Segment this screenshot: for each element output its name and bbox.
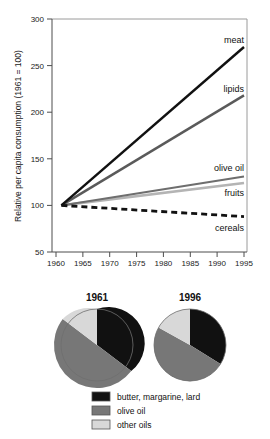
x-tick-label-1980: 1980	[155, 259, 173, 268]
legend-label-olive-oil: olive oil	[117, 406, 145, 416]
line-chart: 300 250 200 150 100 50 1960 1965 1970 19…	[0, 0, 270, 285]
y-axis-title: Relative per capita consumption (1961 = …	[13, 50, 23, 222]
x-tick-label-1990: 1990	[208, 259, 226, 268]
legend-label-butter-margarine-lard: butter, margarine, lard	[117, 392, 200, 402]
y-tick-label-50: 50	[35, 248, 44, 257]
pie-1996	[154, 309, 226, 381]
y-tick-label-150: 150	[31, 155, 45, 164]
figure-container: 300 250 200 150 100 50 1960 1965 1970 19…	[0, 0, 270, 439]
pie-title-1961: 1961	[86, 292, 109, 303]
y-tick-label-250: 250	[31, 62, 45, 71]
x-tick-marks	[56, 252, 244, 257]
series-label-olive-oil: olive oil	[214, 163, 244, 173]
x-tick-label-1985: 1985	[181, 259, 199, 268]
y-tick-label-300: 300	[31, 15, 45, 24]
legend-label-other-oils: other oils	[117, 420, 152, 430]
legend-swatch-other-oils	[92, 420, 110, 429]
y-tick-marks	[47, 19, 52, 252]
series-label-fruits: fruits	[224, 188, 244, 198]
x-tick-label-1975: 1975	[128, 259, 146, 268]
pie-title-1996: 1996	[179, 292, 202, 303]
y-tick-label-100: 100	[31, 201, 45, 210]
legend-swatch-olive-oil	[92, 406, 110, 415]
pie-1961	[54, 307, 145, 388]
pie-charts-section: 1961 1996	[0, 288, 270, 439]
x-tick-label-1960: 1960	[47, 259, 65, 268]
legend-swatch-butter-margarine-lard	[92, 392, 110, 401]
x-tick-label-1965: 1965	[74, 259, 92, 268]
x-tick-label-1995: 1995	[235, 259, 253, 268]
series-label-lipids: lipids	[223, 84, 244, 94]
y-tick-label-200: 200	[31, 108, 45, 117]
series-line-lipids	[61, 95, 244, 205]
pie-legend: butter, margarine, lard olive oil other …	[92, 392, 200, 430]
series-label-cereals: cereals	[215, 223, 245, 233]
series-label-meat: meat	[224, 35, 245, 45]
x-tick-label-1970: 1970	[101, 259, 119, 268]
series-line-cereals	[61, 205, 244, 216]
